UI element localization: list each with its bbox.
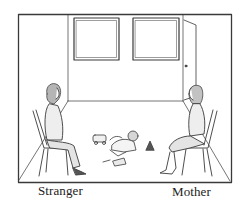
toy-stick — [103, 160, 110, 162]
toy-truck — [93, 135, 106, 142]
toy-cone — [146, 141, 154, 150]
window-left — [74, 18, 119, 60]
mother-figure — [160, 85, 205, 174]
room-illustration — [0, 0, 244, 207]
mother-label: Mother — [172, 184, 211, 200]
stranger-label: Stranger — [38, 183, 83, 199]
stranger-figure — [45, 84, 86, 175]
toy-block — [113, 158, 126, 166]
window-right — [133, 18, 179, 60]
infant — [110, 131, 138, 156]
